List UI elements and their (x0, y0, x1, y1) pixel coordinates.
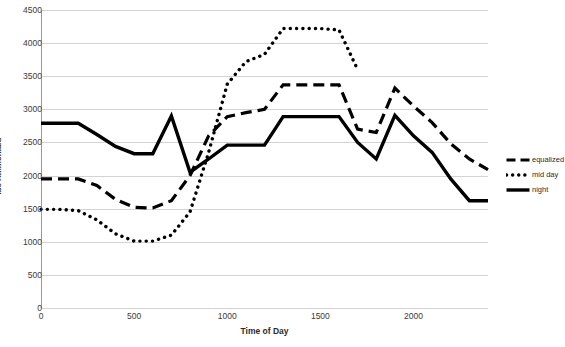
legend-item-mid-day: mid day (506, 167, 564, 182)
legend-swatch-icon (506, 170, 530, 180)
ammonia-time-of-day-chart: 050010001500200025003000350040004500 050… (0, 0, 565, 347)
x-axis-title: Time of Day (41, 326, 488, 336)
y-tick-label: 2500 (2, 137, 42, 147)
y-tick-label: 4500 (2, 5, 42, 15)
y-tick-label: 2000 (2, 171, 42, 181)
legend-item-night: night (506, 182, 564, 197)
legend-swatch-icon (506, 185, 530, 195)
series-layer (41, 10, 488, 308)
plot-area (41, 10, 488, 308)
legend-label: mid day (532, 170, 558, 179)
chart-legend: equalizedmid daynight (506, 152, 564, 197)
y-tick-label: 1500 (2, 204, 42, 214)
x-tick-label: 1500 (311, 311, 330, 321)
series-line-night (41, 115, 488, 200)
x-tick-label: 2000 (404, 311, 423, 321)
x-tick-label: 0 (39, 311, 44, 321)
legend-swatch-icon (506, 155, 530, 165)
x-tick-label: 500 (127, 311, 141, 321)
series-line-mid-day (41, 29, 358, 242)
legend-label: equalized (532, 155, 564, 164)
y-tick-label: 0 (2, 303, 42, 313)
x-tick-label: 1000 (218, 311, 237, 321)
y-tick-label: 1000 (2, 237, 42, 247)
legend-item-equalized: equalized (506, 152, 564, 167)
y-tick-label: 3000 (2, 104, 42, 114)
y-tick-label: 3500 (2, 71, 42, 81)
y-tick-label: 4000 (2, 38, 42, 48)
y-tick-label: 500 (2, 270, 42, 280)
legend-label: night (532, 185, 548, 194)
gridline (41, 308, 488, 309)
y-axis-title: lbs Ammonia/d (0, 106, 3, 226)
